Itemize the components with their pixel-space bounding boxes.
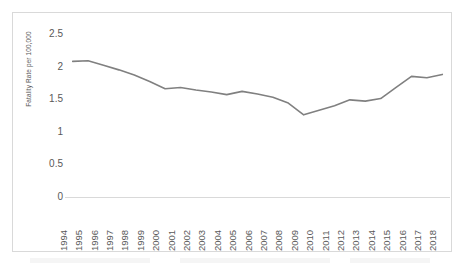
x-tick-label: 2010	[305, 205, 315, 251]
background-artifact	[30, 258, 150, 263]
x-tick-label: 2001	[167, 205, 177, 251]
x-tick-label: 2007	[259, 205, 269, 251]
x-tick-label: 2002	[182, 205, 192, 251]
x-tick-label: 2003	[197, 205, 207, 251]
x-tick-label: 2013	[351, 205, 361, 251]
series-line-fatality-rate	[73, 61, 443, 115]
background-artifact	[350, 258, 430, 263]
chart-container: Fatality Rate per 100,000 00.511.522.5 1…	[12, 12, 452, 252]
x-axis-tick-labels: 1994199519961997199819992000200120022003…	[65, 201, 450, 251]
x-tick-label: 1998	[120, 205, 130, 251]
x-tick-label: 1996	[90, 205, 100, 251]
x-tick-label: 1997	[105, 205, 115, 251]
x-tick-label: 2015	[382, 205, 392, 251]
x-tick-label: 2014	[367, 205, 377, 251]
x-tick-label: 2006	[244, 205, 254, 251]
x-tick-label: 2000	[151, 205, 161, 251]
x-tick-label: 2005	[228, 205, 238, 251]
x-tick-label: 1995	[74, 205, 84, 251]
x-tick-label: 1994	[59, 205, 69, 251]
x-tick-label: 2016	[398, 205, 408, 251]
x-tick-label: 2009	[290, 205, 300, 251]
x-tick-label: 2018	[428, 205, 438, 251]
x-tick-label: 2004	[213, 205, 223, 251]
x-tick-label: 1999	[136, 205, 146, 251]
x-tick-label: 2017	[413, 205, 423, 251]
background-artifact	[180, 258, 330, 263]
plot-area: Fatality Rate per 100,000 00.511.522.5 1…	[13, 13, 451, 251]
x-tick-label: 2008	[274, 205, 284, 251]
x-tick-label: 2011	[321, 205, 331, 251]
x-tick-label: 2012	[336, 205, 346, 251]
